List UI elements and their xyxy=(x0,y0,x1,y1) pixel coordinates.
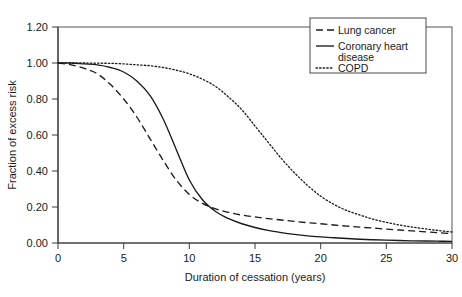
y-tick-label-0.40: 0.40 xyxy=(27,165,48,177)
data-curves xyxy=(58,63,452,241)
curve-coronary-heart-disease xyxy=(58,63,452,241)
x-tick-label-25: 25 xyxy=(380,252,392,264)
x-axis-tick-labels: 0 5 10 15 20 25 30 xyxy=(55,252,458,264)
x-axis-ticks xyxy=(58,243,452,249)
curve-copd xyxy=(58,63,452,232)
x-axis: 0 5 10 15 20 25 30 Duration of cessation… xyxy=(55,243,458,283)
x-tick-label-30: 30 xyxy=(446,252,458,264)
y-tick-label-0.60: 0.60 xyxy=(27,129,48,141)
x-axis-title: Duration of cessation (years) xyxy=(185,271,326,283)
legend-label-copd: COPD xyxy=(338,62,369,74)
y-axis: 1.20 1.00 0.80 0.60 0.40 0.20 0.00 Fract… xyxy=(6,21,58,249)
y-tick-label-1.20: 1.20 xyxy=(27,21,48,33)
y-axis-title: Fraction of excess risk xyxy=(6,80,18,190)
x-tick-label-0: 0 xyxy=(55,252,61,264)
y-tick-label-1.00: 1.00 xyxy=(27,57,48,69)
y-tick-label-0.80: 0.80 xyxy=(27,93,48,105)
legend: Lung cancer Coronary heart disease COPD xyxy=(310,18,426,74)
curve-lung-cancer xyxy=(58,63,452,234)
x-tick-label-10: 10 xyxy=(183,252,195,264)
chart-figure: 1.20 1.00 0.80 0.60 0.40 0.20 0.00 Fract… xyxy=(0,0,462,297)
y-axis-tick-labels: 1.20 1.00 0.80 0.60 0.40 0.20 0.00 xyxy=(27,21,48,249)
y-tick-label-0.00: 0.00 xyxy=(27,237,48,249)
x-tick-label-5: 5 xyxy=(121,252,127,264)
x-tick-label-15: 15 xyxy=(249,252,261,264)
legend-label-lung-cancer: Lung cancer xyxy=(338,24,396,36)
x-tick-label-20: 20 xyxy=(315,252,327,264)
y-axis-ticks xyxy=(52,27,58,243)
chart-svg: 1.20 1.00 0.80 0.60 0.40 0.20 0.00 Fract… xyxy=(0,0,462,297)
y-tick-label-0.20: 0.20 xyxy=(27,201,48,213)
